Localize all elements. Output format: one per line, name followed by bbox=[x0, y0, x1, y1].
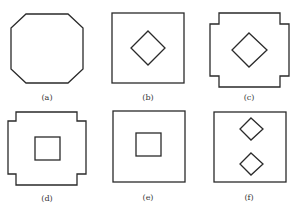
notched-square bbox=[8, 112, 86, 185]
lower-diamond bbox=[240, 153, 263, 175]
panel-label-d: (d) bbox=[41, 194, 52, 203]
panel-label-a: (a) bbox=[41, 93, 52, 102]
inner-square bbox=[35, 137, 60, 160]
outer-square bbox=[214, 112, 286, 182]
octagon-shape bbox=[11, 14, 83, 83]
outer-square bbox=[113, 111, 185, 182]
panel-label-c: (c) bbox=[244, 93, 255, 102]
panel-label-f: (f) bbox=[244, 193, 253, 202]
panel-a bbox=[11, 14, 83, 83]
panel-b bbox=[112, 13, 184, 83]
inner-square bbox=[136, 133, 161, 156]
notched-square bbox=[210, 13, 289, 87]
panel-c bbox=[210, 13, 289, 87]
panel-label-b: (b) bbox=[142, 93, 153, 102]
panel-d bbox=[8, 112, 86, 185]
inner-diamond bbox=[131, 31, 165, 65]
panel-label-e: (e) bbox=[143, 193, 154, 202]
figure-canvas bbox=[0, 0, 297, 214]
outer-square bbox=[112, 13, 184, 83]
upper-diamond bbox=[240, 118, 263, 140]
inner-diamond bbox=[232, 33, 267, 67]
panel-f bbox=[214, 112, 286, 182]
panel-e bbox=[113, 111, 185, 182]
